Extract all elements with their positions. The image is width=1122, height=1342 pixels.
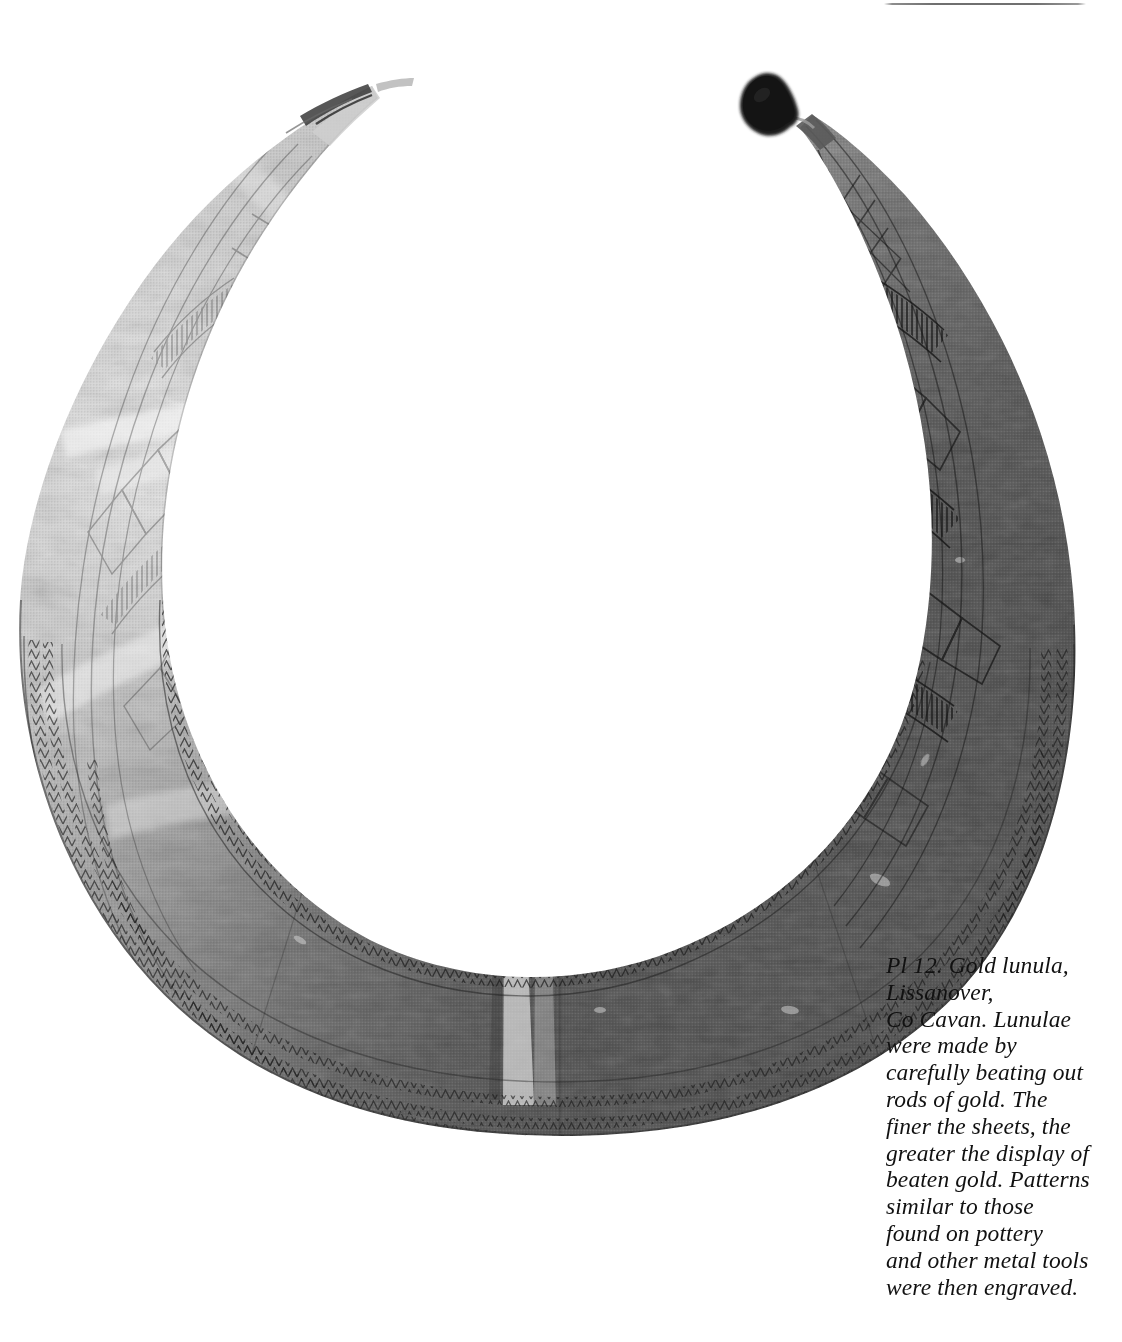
page-root: Pl 12. Gold lunula, Lissanover, Co Cavan… bbox=[0, 0, 1122, 1342]
plate-caption: Pl 12. Gold lunula, Lissanover, Co Cavan… bbox=[886, 952, 1104, 1300]
dark-mount-blob bbox=[740, 73, 799, 136]
